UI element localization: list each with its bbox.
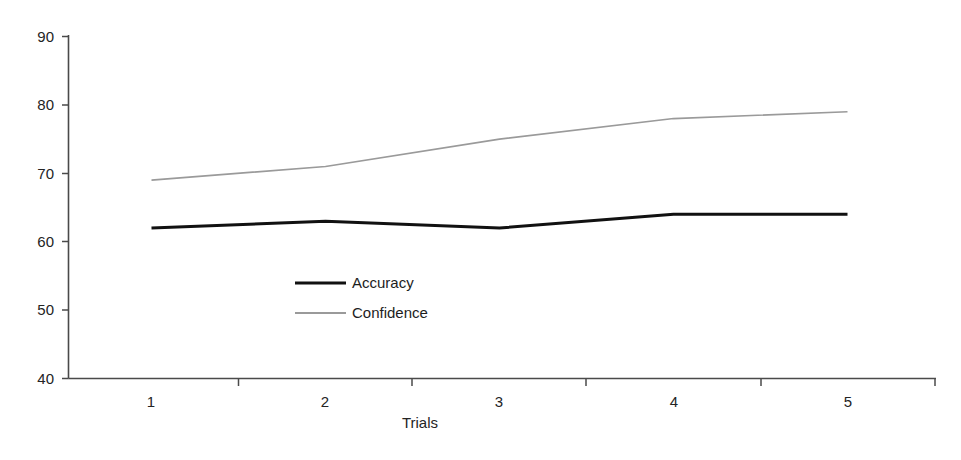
x-tick-marks: [239, 379, 936, 387]
y-tick-label-50: 50: [14, 301, 54, 318]
y-tick-label-80: 80: [14, 96, 54, 113]
x-tick-label-5: 5: [828, 393, 868, 410]
series-line-confidence: [152, 112, 848, 180]
legend-label-accuracy: Accuracy: [352, 274, 414, 291]
line-chart: 90 80 70 60 50 40 1 2 3 4 5 Trials Accur…: [0, 0, 961, 460]
y-tick-label-40: 40: [14, 370, 54, 387]
legend-label-confidence: Confidence: [352, 304, 428, 321]
data-series-layer: [152, 112, 848, 228]
plot-area: [0, 0, 961, 460]
x-axis-title: Trials: [380, 414, 460, 431]
y-tick-label-60: 60: [14, 233, 54, 250]
x-tick-label-4: 4: [654, 393, 694, 410]
x-tick-label-2: 2: [305, 393, 345, 410]
y-tick-label-90: 90: [14, 28, 54, 45]
x-tick-label-3: 3: [479, 393, 519, 410]
y-tick-marks: [62, 37, 69, 379]
x-tick-label-1: 1: [131, 393, 171, 410]
series-line-accuracy: [152, 214, 848, 228]
y-tick-label-70: 70: [14, 165, 54, 182]
